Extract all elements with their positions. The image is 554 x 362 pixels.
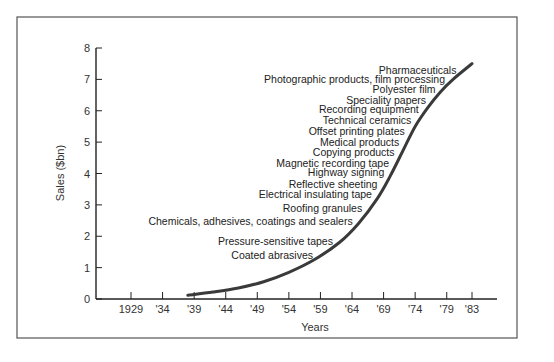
x-tick-label: '44 — [219, 303, 233, 315]
annotation-label: Electrical insulating tape — [259, 188, 372, 200]
y-tick-label: 4 — [84, 168, 90, 180]
annotation-label: Chemicals, adhesives, coatings and seale… — [148, 215, 352, 227]
x-tick-label: '59 — [313, 303, 327, 315]
y-tick-label: 0 — [84, 293, 90, 305]
x-tick-label: '39 — [187, 303, 201, 315]
y-tick-label: 1 — [84, 262, 90, 274]
x-tick-label: '74 — [408, 303, 422, 315]
chart: 0123456781929'34'39'44'49'54'59'64'69'74… — [0, 0, 554, 362]
y-tick-label: 3 — [84, 199, 90, 211]
x-tick-label: '83 — [465, 303, 479, 315]
x-tick-label: '34 — [155, 303, 169, 315]
x-tick-label: '54 — [282, 303, 296, 315]
annotation-label: Highway signing — [308, 166, 385, 178]
x-tick-label: '69 — [376, 303, 390, 315]
y-tick-label: 5 — [84, 136, 90, 148]
y-tick-label: 7 — [84, 73, 90, 85]
x-tick-label: '64 — [345, 303, 359, 315]
annotation-label: Pressure-sensitive tapes — [218, 235, 333, 247]
x-axis-title: Years — [301, 321, 329, 333]
y-tick-label: 8 — [84, 42, 90, 54]
y-tick-label: 2 — [84, 230, 90, 242]
y-tick-label: 6 — [84, 105, 90, 117]
x-tick-label: '49 — [250, 303, 264, 315]
x-tick-label: 1929 — [119, 303, 143, 315]
annotation-label: Coated abrasives — [231, 249, 313, 261]
y-axis-title: Sales ($bn) — [54, 145, 66, 201]
x-tick-label: '79 — [440, 303, 454, 315]
annotation-label: Roofing granules — [283, 202, 362, 214]
